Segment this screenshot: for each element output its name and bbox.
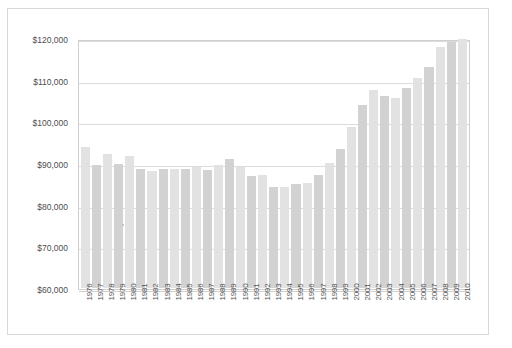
bar xyxy=(203,170,212,288)
bar-slot xyxy=(379,42,390,288)
x-axis-tick: 2003 xyxy=(380,292,391,336)
bar-slot xyxy=(435,42,446,288)
bar xyxy=(358,105,367,288)
bar xyxy=(181,169,190,288)
bar xyxy=(424,67,433,289)
bar-slot xyxy=(446,42,457,288)
bar xyxy=(303,183,312,288)
x-axis-tick: 2001 xyxy=(358,292,369,336)
x-axis-tick: 2007 xyxy=(424,292,435,336)
bar xyxy=(225,159,234,288)
x-axis-tick: 1999 xyxy=(335,292,346,336)
bar-slot xyxy=(279,42,290,288)
x-axis-tick: 2008 xyxy=(436,292,447,336)
bar-slot xyxy=(235,42,246,288)
x-axis-tick: 1982 xyxy=(146,292,157,336)
x-axis-tick: 1989 xyxy=(224,292,235,336)
scan-artifact xyxy=(122,224,124,226)
bar-slot xyxy=(113,42,124,288)
x-axis-tick: 1993 xyxy=(268,292,279,336)
bar xyxy=(413,78,422,288)
bar xyxy=(170,169,179,288)
x-axis-labels: 1976197719781979198019811982198319841985… xyxy=(79,292,471,336)
x-axis-tick: 2009 xyxy=(447,292,458,336)
x-axis-tick: 2006 xyxy=(413,292,424,336)
bar-slot xyxy=(124,42,135,288)
bar xyxy=(325,163,334,288)
bar-slot xyxy=(202,42,213,288)
x-axis-tick: 1977 xyxy=(90,292,101,336)
bar-series xyxy=(80,42,468,288)
bar-slot xyxy=(135,42,146,288)
x-axis-tick: 1985 xyxy=(179,292,190,336)
bar xyxy=(125,156,134,288)
bar xyxy=(247,176,256,288)
y-axis-tick-label: $80,000 xyxy=(37,202,68,212)
y-axis-tick-label: $110,000 xyxy=(33,77,68,87)
bar xyxy=(291,184,300,288)
bar-slot xyxy=(180,42,191,288)
x-axis-tick: 1987 xyxy=(202,292,213,336)
bar xyxy=(236,167,245,288)
x-axis-tick: 1994 xyxy=(280,292,291,336)
y-axis-tick-label: $120,000 xyxy=(33,35,68,45)
bar-slot xyxy=(169,42,180,288)
x-axis-tick: 1978 xyxy=(101,292,112,336)
chart-figure: $120,000$110,000$100,000$90,000$80,000$7… xyxy=(0,0,512,348)
bar xyxy=(159,169,168,288)
x-axis-tick: 2002 xyxy=(369,292,380,336)
bar-slot xyxy=(368,42,379,288)
x-axis-tick: 1979 xyxy=(112,292,123,336)
bar xyxy=(81,147,90,288)
x-axis-tick: 1997 xyxy=(313,292,324,336)
bar-slot xyxy=(401,42,412,288)
x-axis-tick: 1998 xyxy=(324,292,335,336)
bar xyxy=(347,127,356,288)
y-axis-tick-label: $60,000 xyxy=(37,285,68,295)
bar-slot xyxy=(335,42,346,288)
x-axis-tick: 1981 xyxy=(135,292,146,336)
bar xyxy=(380,96,389,288)
x-axis-tick: 1984 xyxy=(168,292,179,336)
bar xyxy=(103,154,112,288)
bar-slot xyxy=(412,42,423,288)
bar xyxy=(391,98,400,288)
y-axis-labels: $120,000$110,000$100,000$90,000$80,000$7… xyxy=(0,40,72,290)
bar xyxy=(214,165,223,288)
x-axis-tick-label: 2010 xyxy=(463,284,472,301)
bar-slot xyxy=(324,42,335,288)
bar-slot xyxy=(224,42,235,288)
bar-slot xyxy=(158,42,169,288)
y-axis-tick-label: $90,000 xyxy=(37,160,68,170)
bar-slot xyxy=(191,42,202,288)
bar-slot xyxy=(257,42,268,288)
bar xyxy=(447,42,456,288)
x-axis-tick: 2004 xyxy=(391,292,402,336)
x-axis-tick: 2010 xyxy=(458,292,469,336)
bar-slot xyxy=(390,42,401,288)
x-axis-tick: 1988 xyxy=(213,292,224,336)
x-axis-tick: 1983 xyxy=(157,292,168,336)
x-axis-tick: 2005 xyxy=(402,292,413,336)
bar-slot xyxy=(302,42,313,288)
bar-slot xyxy=(246,42,257,288)
bar-slot xyxy=(80,42,91,288)
bar xyxy=(192,167,201,288)
x-axis-tick: 2000 xyxy=(346,292,357,336)
plot-area xyxy=(78,40,470,290)
bar xyxy=(147,171,156,288)
bar-slot xyxy=(91,42,102,288)
bar-slot xyxy=(357,42,368,288)
x-axis-tick: 1996 xyxy=(302,292,313,336)
bar xyxy=(258,175,267,288)
bar-slot xyxy=(146,42,157,288)
bar xyxy=(402,88,411,288)
bar xyxy=(314,175,323,288)
bar-slot xyxy=(268,42,279,288)
bar xyxy=(369,90,378,288)
bar-slot xyxy=(313,42,324,288)
x-axis-tick: 1995 xyxy=(291,292,302,336)
bar-slot xyxy=(213,42,224,288)
x-axis-tick: 1990 xyxy=(235,292,246,336)
plot-wrapper xyxy=(78,40,470,290)
